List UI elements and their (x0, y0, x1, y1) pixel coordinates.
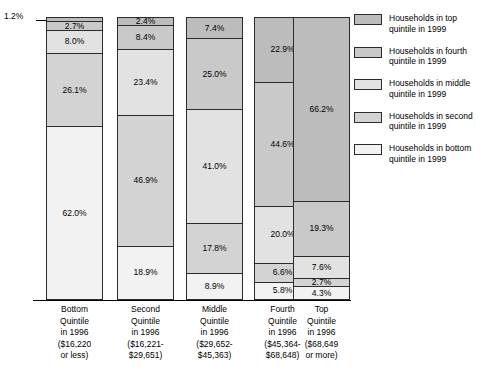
segment-value-label: 2.7% (65, 22, 84, 30)
segment-value-label: 23.4% (133, 78, 157, 87)
segment-value-label: 5.8% (273, 286, 292, 295)
legend-label-line: quintile in 1999 (389, 56, 467, 67)
legend-label-line: quintile in 1999 (389, 89, 470, 100)
x-axis-label-line: in 1996 (110, 327, 182, 339)
x-axis-label-line: $29,651) (110, 350, 182, 362)
x-axis-label-line: Quintile (286, 316, 358, 328)
x-axis-label-line: Quintile (110, 316, 182, 328)
bar-segment[interactable]: 7.4% (187, 18, 242, 39)
bar-segment[interactable]: 8.0% (47, 31, 102, 54)
legend-swatch-icon (354, 144, 382, 155)
segment-value-label: 22.9% (270, 45, 294, 54)
x-axis-label: TopQuintilein 1996($68,649or more) (286, 304, 358, 362)
segment-value-label: 46.9% (133, 176, 157, 185)
x-axis-labels: BottomQuintilein 1996($16,220or less)Sec… (0, 304, 350, 379)
legend-item[interactable]: Households in bottomquintile in 1999 (354, 143, 491, 168)
bar-segment[interactable]: 4.3% (294, 287, 349, 299)
segment-value-label: 62.0% (62, 209, 86, 218)
x-axis-label-line: Middle (179, 304, 251, 316)
legend-swatch-icon (354, 47, 382, 58)
bar-bottom-quintile[interactable]: 2.7%8.0%26.1%62.0% (46, 17, 103, 300)
legend-swatch-icon (354, 14, 382, 25)
x-axis-label-line: Top (286, 304, 358, 316)
legend-label: Households in bottomquintile in 1999 (389, 143, 471, 164)
x-axis-label-line: Bottom (39, 304, 111, 316)
plot-area: 1.2% 2.7%8.0%26.1%62.0%2.4%8.4%23.4%46.9… (0, 0, 350, 310)
x-axis-label-line: Quintile (179, 316, 251, 328)
segment-value-label: 7.6% (312, 263, 331, 272)
bar-segment[interactable]: 18.9% (118, 247, 173, 299)
segment-value-label: 17.8% (202, 244, 226, 253)
bar-segment[interactable]: 2.7% (47, 22, 102, 30)
segment-value-label: 25.0% (202, 70, 226, 79)
x-axis-line (33, 300, 351, 301)
x-axis-label-line: ($16,221- (110, 339, 182, 351)
segment-value-label: 19.3% (309, 224, 333, 233)
bar-middle-quintile[interactable]: 7.4%25.0%41.0%17.8%8.9% (186, 17, 243, 300)
legend-item[interactable]: Households in fourthquintile in 1999 (354, 46, 491, 71)
legend-label: Households in fourthquintile in 1999 (389, 46, 467, 67)
bar-segment[interactable]: 19.3% (294, 202, 349, 256)
legend-label-line: quintile in 1999 (389, 121, 473, 132)
x-axis-label-line: ($29,652- (179, 339, 251, 351)
segment-value-label: 44.6% (270, 140, 294, 149)
segment-value-label: 2.4% (136, 18, 155, 26)
x-axis-label-line: Quintile (39, 316, 111, 328)
segment-value-label: 26.1% (62, 86, 86, 95)
bar-segment[interactable]: 2.7% (294, 279, 349, 287)
legend-label: Households in topquintile in 1999 (389, 13, 457, 34)
legend-item[interactable]: Households in secondquintile in 1999 (354, 111, 491, 136)
legend-label-line: Households in middle (389, 78, 470, 89)
legend-label-line: Households in second (389, 111, 473, 122)
legend-item[interactable]: Households in middlequintile in 1999 (354, 78, 491, 103)
legend-label-line: Households in bottom (389, 143, 471, 154)
legend-label-line: Households in fourth (389, 46, 467, 57)
legend-swatch-icon (354, 112, 382, 123)
segment-value-label: 8.4% (136, 33, 155, 42)
x-axis-label-line: ($16,220 (39, 339, 111, 351)
x-axis-label: SecondQuintilein 1996($16,221-$29,651) (110, 304, 182, 362)
bar-segment[interactable]: 66.2% (294, 18, 349, 202)
bar-segment[interactable]: 23.4% (118, 50, 173, 116)
legend-label-line: quintile in 1999 (389, 24, 457, 35)
stacked-bar-chart: 1.2% 2.7%8.0%26.1%62.0%2.4%8.4%23.4%46.9… (0, 0, 491, 379)
segment-value-label: 7.4% (205, 24, 224, 33)
bar-segment[interactable]: 2.4% (118, 18, 173, 26)
bar-segment[interactable]: 62.0% (47, 127, 102, 299)
bar-segment[interactable]: 7.6% (294, 257, 349, 279)
x-axis-label-line: in 1996 (286, 327, 358, 339)
bar-segment[interactable]: 41.0% (187, 110, 242, 224)
bar-segment[interactable]: 17.8% (187, 224, 242, 274)
segment-value-label: 8.9% (205, 282, 224, 291)
legend-item[interactable]: Households in topquintile in 1999 (354, 13, 491, 38)
legend-label: Households in secondquintile in 1999 (389, 111, 473, 132)
x-axis-label-line: $45,363) (179, 350, 251, 362)
legend-label-line: quintile in 1999 (389, 154, 471, 165)
segment-value-label: 6.6% (273, 268, 292, 277)
segment-value-label: 2.7% (312, 279, 331, 287)
segment-value-label: 18.9% (133, 268, 157, 277)
bar-segment[interactable]: 26.1% (47, 54, 102, 127)
legend-label-line: Households in top (389, 13, 457, 24)
x-axis-label: MiddleQuintilein 1996($29,652-$45,363) (179, 304, 251, 362)
x-axis-label-line: Second (110, 304, 182, 316)
segment-value-label: 20.0% (270, 230, 294, 239)
legend-label: Households in middlequintile in 1999 (389, 78, 470, 99)
bar-segment[interactable]: 8.4% (118, 26, 173, 50)
segment-value-label: 41.0% (202, 162, 226, 171)
x-axis-label-line: in 1996 (39, 327, 111, 339)
segment-value-label: 4.3% (312, 289, 331, 298)
x-axis-label: BottomQuintilein 1996($16,220or less) (39, 304, 111, 362)
x-axis-label-line: or less) (39, 350, 111, 362)
bar-segment[interactable]: 46.9% (118, 116, 173, 247)
segment-value-label: 8.0% (65, 37, 84, 46)
bar-segment[interactable]: 8.9% (187, 274, 242, 299)
segment-value-label: 66.2% (309, 105, 333, 114)
x-axis-label-line: ($68,649 (286, 339, 358, 351)
x-axis-label-line: in 1996 (179, 327, 251, 339)
bar-top-quintile[interactable]: 66.2%19.3%7.6%2.7%4.3% (293, 17, 350, 300)
x-axis-label-line: or more) (286, 350, 358, 362)
chart-legend: Households in topquintile in 1999Househo… (354, 13, 491, 176)
bar-segment[interactable]: 25.0% (187, 39, 242, 109)
bar-second-quintile[interactable]: 2.4%8.4%23.4%46.9%18.9% (117, 17, 174, 300)
